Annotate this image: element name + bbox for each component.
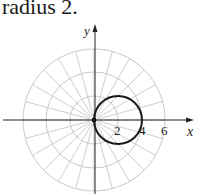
tick-label-4: 4 (139, 123, 146, 138)
y-axis-label: y (82, 23, 90, 38)
tick-label-6: 6 (161, 123, 168, 138)
x-axis-arrow-icon (186, 118, 194, 123)
polar-graph: y x 2 4 6 (0, 0, 210, 194)
x-axis-label: x (186, 124, 194, 139)
y-axis-arrow-icon (93, 24, 98, 32)
origin-point (92, 118, 97, 123)
tick-label-2: 2 (114, 123, 121, 138)
